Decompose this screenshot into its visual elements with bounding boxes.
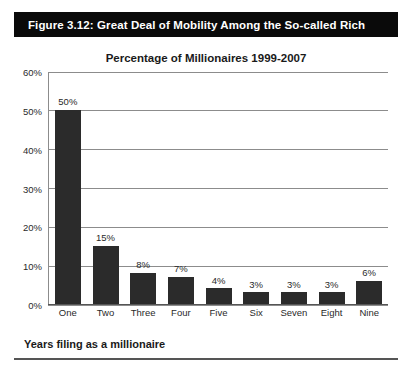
bar-rect[interactable]	[243, 292, 269, 304]
x-tick-label-nine: Nine	[350, 307, 388, 318]
bar-value-label: 4%	[212, 276, 226, 286]
bar-nine[interactable]: 6%	[356, 72, 382, 304]
x-tick-label-eight: Eight	[313, 307, 351, 318]
bar-slot: 6%	[350, 72, 388, 304]
figure-banner: Figure 3.12: Great Deal of Mobility Amon…	[14, 12, 398, 37]
x-axis-caption: Years filing as a millionaire	[24, 338, 165, 350]
y-tick-label: 60%	[23, 67, 42, 78]
x-tick-label-five: Five	[200, 307, 238, 318]
footer-rule	[14, 358, 398, 360]
bar-rect[interactable]	[130, 273, 156, 304]
bar-rect[interactable]	[281, 292, 307, 304]
bar-rect[interactable]	[356, 281, 382, 304]
y-tick-label: 20%	[23, 222, 42, 233]
bar-slot: 50%	[49, 72, 87, 304]
bar-rect[interactable]	[55, 110, 81, 304]
y-tick-label: 50%	[23, 105, 42, 116]
bar-eight[interactable]: 3%	[319, 72, 345, 304]
y-tick-label: 10%	[23, 261, 42, 272]
chart-title: Percentage of Millionaires 1999-2007	[14, 52, 398, 64]
bar-value-label: 6%	[362, 268, 376, 278]
figure-banner-label: Figure 3.12: Great Deal of Mobility Amon…	[14, 19, 365, 31]
x-tick-label-four: Four	[162, 307, 200, 318]
bar-slot: 15%	[87, 72, 125, 304]
bar-value-label: 50%	[58, 97, 77, 107]
bar-three[interactable]: 8%	[130, 72, 156, 304]
bar-value-label: 3%	[325, 280, 339, 290]
x-axis-tick-labels: OneTwoThreeFourFiveSixSevenEightNine	[49, 307, 388, 318]
bar-value-label: 3%	[249, 280, 263, 290]
bar-four[interactable]: 7%	[168, 72, 194, 304]
bar-value-label: 7%	[174, 264, 188, 274]
plot-area: 0%10%20%30%40%50%60% 50%15%8%7%4%3%3%3%6…	[48, 72, 388, 305]
x-axis-line	[48, 304, 388, 305]
bar-five[interactable]: 4%	[206, 72, 232, 304]
x-tick-label-three: Three	[124, 307, 162, 318]
x-tick-label-one: One	[49, 307, 87, 318]
y-tick-label: 30%	[23, 183, 42, 194]
bar-one[interactable]: 50%	[55, 72, 81, 304]
bar-value-label: 3%	[287, 280, 301, 290]
bar-rect[interactable]	[319, 292, 345, 304]
bar-six[interactable]: 3%	[243, 72, 269, 304]
bar-seven[interactable]: 3%	[281, 72, 307, 304]
x-tick-label-six: Six	[237, 307, 275, 318]
bar-rect[interactable]	[168, 277, 194, 304]
bar-slot: 3%	[275, 72, 313, 304]
bar-slot: 3%	[313, 72, 351, 304]
bar-value-label: 15%	[96, 233, 115, 243]
bar-rect[interactable]	[206, 288, 232, 304]
bar-slot: 4%	[200, 72, 238, 304]
bars-layer: 50%15%8%7%4%3%3%3%6%	[49, 72, 388, 304]
bar-two[interactable]: 15%	[93, 72, 119, 304]
bar-value-label: 8%	[136, 260, 150, 270]
bar-slot: 7%	[162, 72, 200, 304]
x-tick-label-seven: Seven	[275, 307, 313, 318]
y-tick-label: 0%	[28, 300, 42, 311]
bar-slot: 3%	[237, 72, 275, 304]
x-tick-label-two: Two	[87, 307, 125, 318]
bar-slot: 8%	[124, 72, 162, 304]
bar-rect[interactable]	[93, 246, 119, 304]
y-tick-label: 40%	[23, 144, 42, 155]
